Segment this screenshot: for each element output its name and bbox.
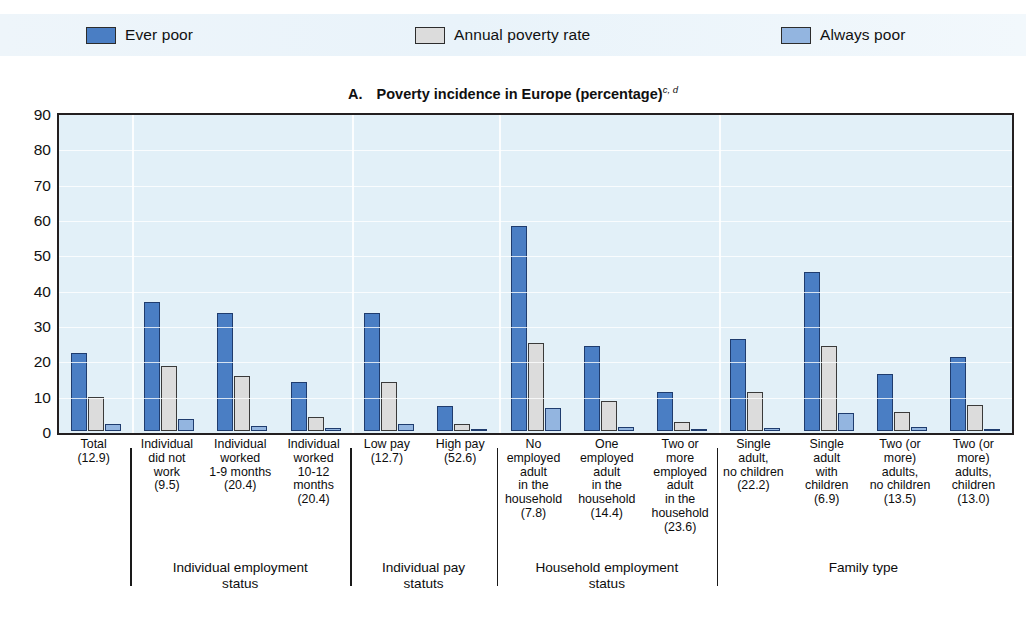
bar-always [325, 428, 341, 431]
bar-always [471, 429, 487, 431]
bar-always [178, 419, 194, 431]
bar-always [545, 408, 561, 431]
legend-item-always-poor: Always poor [781, 26, 906, 44]
plot-area [57, 113, 1014, 435]
chart-legend: Ever poor Annual poverty rate Always poo… [0, 14, 1026, 56]
bar-annual [88, 397, 104, 431]
group-label: Family type [717, 560, 1010, 576]
group-labels: Individual employmentstatusIndividual pa… [57, 440, 1014, 605]
square-swatch-icon [781, 27, 811, 44]
gridline [59, 327, 1012, 328]
bar-always [251, 426, 267, 431]
bar-always [691, 429, 707, 431]
y-axis-tick: 70 [17, 177, 51, 195]
bar-always [911, 427, 927, 431]
group-separator [352, 115, 354, 433]
y-axis-tick: 90 [17, 106, 51, 124]
chart-figure: Ever poor Annual poverty rate Always poo… [0, 0, 1026, 626]
gridline [59, 256, 1012, 257]
bar-always [105, 424, 121, 431]
legend-label-annual-poverty-rate: Annual poverty rate [454, 26, 590, 44]
bar-annual [454, 424, 470, 431]
bar-ever [71, 353, 87, 431]
y-axis-tick: 20 [17, 353, 51, 371]
bar-annual [894, 412, 910, 431]
gridline [59, 221, 1012, 222]
bar-ever [804, 272, 820, 431]
gridline [59, 398, 1012, 399]
gridline [59, 292, 1012, 293]
bar-always [984, 429, 1000, 431]
bar-ever [877, 374, 893, 431]
group-label: Individual paystatuts [350, 560, 497, 591]
legend-item-ever-poor: Ever poor [86, 26, 193, 44]
bar-annual [674, 422, 690, 431]
group-separator [719, 115, 721, 433]
bar-ever [950, 357, 966, 431]
gridline [59, 150, 1012, 151]
panel-letter: A. [348, 86, 363, 102]
y-axis-tick: 10 [17, 389, 51, 407]
square-swatch-icon [415, 27, 445, 44]
y-axis-tick: 30 [17, 318, 51, 336]
bars-container [61, 117, 1010, 431]
bar-ever [217, 313, 233, 431]
group-label: Household employmentstatus [497, 560, 717, 591]
bar-ever [364, 313, 380, 431]
y-axis-tick: 0 [17, 424, 51, 442]
chart-title-text: Poverty incidence in Europe (percentage) [377, 86, 663, 102]
group-separator [499, 115, 501, 433]
bar-ever [144, 302, 160, 431]
group-label: Individual employmentstatus [130, 560, 350, 591]
legend-label-ever-poor: Ever poor [125, 26, 193, 44]
group-separator [132, 115, 134, 433]
bar-annual [234, 376, 250, 431]
gridline [59, 186, 1012, 187]
y-axis-tick: 60 [17, 212, 51, 230]
square-swatch-icon [86, 27, 116, 44]
bar-always [398, 424, 414, 431]
y-axis-tick: 80 [17, 141, 51, 159]
bar-always [764, 428, 780, 431]
legend-label-always-poor: Always poor [820, 26, 906, 44]
bar-annual [381, 382, 397, 431]
bar-annual [821, 346, 837, 431]
y-axis: 0102030405060708090 [11, 113, 51, 435]
bar-annual [967, 405, 983, 432]
y-axis-tick: 50 [17, 247, 51, 265]
bar-always [838, 413, 854, 431]
plot-wrapper [57, 113, 1014, 435]
bar-annual [308, 417, 324, 431]
gridline [59, 362, 1012, 363]
y-axis-tick: 40 [17, 283, 51, 301]
bar-annual [601, 401, 617, 431]
bar-annual [528, 343, 544, 431]
legend-item-annual-poverty-rate: Annual poverty rate [415, 26, 590, 44]
bar-ever [437, 406, 453, 431]
bar-ever [584, 346, 600, 431]
chart-title: A.Poverty incidence in Europe (percentag… [0, 84, 1026, 102]
bar-ever [291, 382, 307, 431]
chart-title-superscript: c, d [663, 84, 678, 95]
bar-ever [730, 339, 746, 431]
bar-always [618, 427, 634, 431]
